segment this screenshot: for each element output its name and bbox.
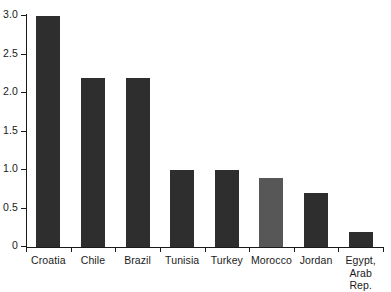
bar-chile [81, 78, 105, 247]
y-tick-label: 3.0 [3, 8, 18, 20]
x-axis-label-line: Jordan [294, 254, 339, 267]
x-axis-label-line: Brazil [115, 254, 160, 267]
y-tick-label: 0 [12, 239, 18, 251]
x-tick-mark [160, 247, 161, 252]
bar-turkey [215, 170, 239, 247]
y-tick-label: 2.0 [3, 85, 18, 97]
y-tick-label: 2.5 [3, 47, 18, 59]
x-axis-label: Morocco [249, 254, 294, 292]
bar-cell [205, 16, 250, 247]
bar-cell [160, 16, 205, 247]
x-tick-mark [294, 247, 295, 252]
x-axis-label: Egypt,Arab Rep. [338, 254, 383, 292]
bar-tunisia [170, 170, 194, 247]
bar-cell [115, 16, 160, 247]
y-tick-label: 0.5 [3, 201, 18, 213]
bar-cell [294, 16, 339, 247]
bar-cell [26, 16, 71, 247]
bar-cell [71, 16, 116, 247]
x-tick-mark [26, 247, 27, 252]
x-tick-mark [249, 247, 250, 252]
bar-egypt-arab-rep [349, 232, 373, 247]
bar-morocco [259, 178, 283, 247]
x-axis-label-line: Tunisia [160, 254, 205, 267]
x-tick-mark [71, 247, 72, 252]
x-axis-label-line: Turkey [205, 254, 250, 267]
x-axis-label: Chile [71, 254, 116, 292]
x-axis-label: Jordan [294, 254, 339, 292]
x-axis-label-line: Egypt, [338, 254, 383, 267]
bar-series [26, 16, 383, 247]
x-tick-mark [205, 247, 206, 252]
x-axis-label: Turkey [205, 254, 250, 292]
x-axis-label-line: Morocco [249, 254, 294, 267]
bar-cell [249, 16, 294, 247]
x-axis-label-line: Arab Rep. [338, 267, 383, 292]
x-axis-label-line: Croatia [26, 254, 71, 267]
bar-jordan [304, 193, 328, 247]
bar-croatia [36, 16, 60, 247]
x-tick-mark [115, 247, 116, 252]
x-tick-mark [338, 247, 339, 252]
x-axis-labels: CroatiaChileBrazilTunisiaTurkeyMoroccoJo… [26, 254, 383, 292]
bar-brazil [126, 78, 150, 247]
x-axis-label: Tunisia [160, 254, 205, 292]
x-tick-mark [383, 247, 384, 252]
y-tick-label: 1.0 [3, 162, 18, 174]
x-axis-label-line: Chile [71, 254, 116, 267]
bar-cell [338, 16, 383, 247]
x-axis-label: Croatia [26, 254, 71, 292]
y-tick-label: 1.5 [3, 124, 18, 136]
x-axis-label: Brazil [115, 254, 160, 292]
